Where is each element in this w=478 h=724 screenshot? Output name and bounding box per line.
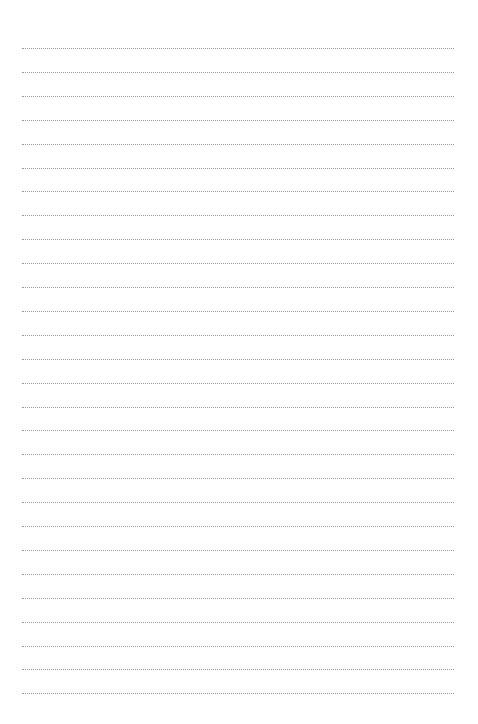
- ruled-line: [22, 622, 454, 623]
- ruled-line: [22, 646, 454, 647]
- ruled-line: [22, 550, 454, 551]
- ruled-line: [22, 335, 454, 336]
- ruled-line: [22, 669, 454, 670]
- ruled-line: [22, 407, 454, 408]
- ruled-line: [22, 383, 454, 384]
- ruled-line: [22, 239, 454, 240]
- ruled-line: [22, 191, 454, 192]
- ruled-line: [22, 454, 454, 455]
- ruled-line: [22, 144, 454, 145]
- ruled-line: [22, 72, 454, 73]
- ruled-line: [22, 287, 454, 288]
- lined-page: [0, 0, 478, 724]
- ruled-line: [22, 359, 454, 360]
- ruled-line: [22, 48, 454, 49]
- ruled-line: [22, 311, 454, 312]
- ruled-line: [22, 526, 454, 527]
- ruled-line: [22, 168, 454, 169]
- ruled-line: [22, 574, 454, 575]
- ruled-line: [22, 478, 454, 479]
- ruled-line: [22, 263, 454, 264]
- ruled-line: [22, 598, 454, 599]
- ruled-line: [22, 120, 454, 121]
- ruled-line: [22, 502, 454, 503]
- ruled-line: [22, 215, 454, 216]
- ruled-line: [22, 430, 454, 431]
- ruled-line: [22, 693, 454, 694]
- ruled-line: [22, 96, 454, 97]
